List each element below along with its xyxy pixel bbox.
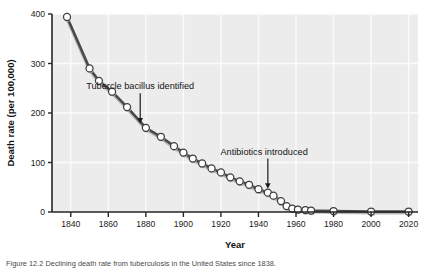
y-axis-title: Death rate (per 100,000) (5, 59, 16, 166)
y-tick-label: 0 (40, 207, 45, 217)
x-tick-label: 1940 (249, 219, 268, 229)
y-tick-label: 300 (31, 59, 46, 69)
x-tick-label: 1980 (324, 219, 343, 229)
figure-caption: Figure 12.2 Declining death rate from tu… (6, 259, 431, 268)
y-tick-label: 100 (31, 158, 46, 168)
x-tick-label: 1860 (99, 219, 118, 229)
x-tick-label: 1920 (211, 219, 230, 229)
x-tick-label: 1960 (286, 219, 305, 229)
x-tick-label: 1880 (136, 219, 155, 229)
x-tick-label: 1900 (174, 219, 193, 229)
x-axis-ticks: 1840186018801900192019401960198020002020 (61, 212, 418, 229)
x-tick-label: 2000 (362, 219, 381, 229)
y-axis-ticks: 0100200300400 (31, 9, 52, 217)
annotation-label: Antibiotics introduced (220, 147, 307, 157)
y-tick-label: 200 (31, 108, 46, 118)
x-tick-label: 2020 (399, 219, 418, 229)
annotation-label: Tubercle bacillus identified (86, 81, 194, 91)
x-axis-title: Year (225, 239, 245, 250)
x-tick-label: 1840 (61, 219, 80, 229)
y-tick-label: 400 (31, 9, 46, 19)
